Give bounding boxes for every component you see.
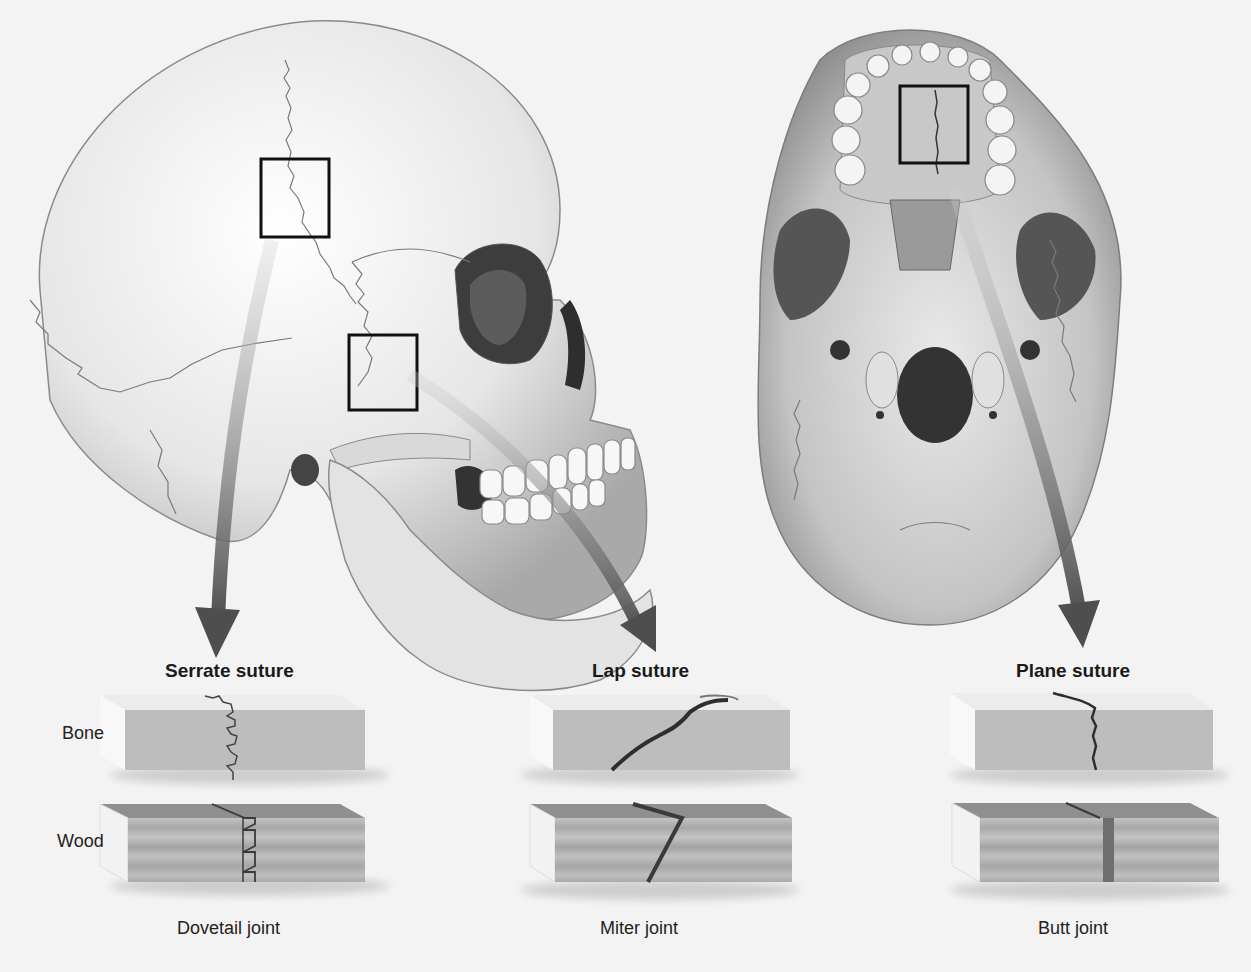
butt-joint-label: Butt joint bbox=[1038, 918, 1108, 939]
wood-row-label: Wood bbox=[57, 831, 104, 852]
wood-blocks-row bbox=[100, 803, 1230, 900]
bone-blocks-row bbox=[100, 693, 1230, 785]
bone-row-label: Bone bbox=[62, 723, 104, 744]
lateral-skull-illustration bbox=[30, 21, 653, 691]
plane-suture-title: Plane suture bbox=[1016, 660, 1130, 682]
serrate-suture-title: Serrate suture bbox=[165, 660, 294, 682]
plane-bone-block bbox=[950, 693, 1230, 785]
dovetail-joint-label: Dovetail joint bbox=[177, 918, 280, 939]
butt-wood-block bbox=[950, 803, 1230, 900]
miter-wood-block bbox=[520, 804, 800, 900]
lap-suture-title: Lap suture bbox=[592, 660, 689, 682]
miter-joint-label: Miter joint bbox=[600, 918, 678, 939]
suture-diagram: Serrate suture Lap suture Plane suture B… bbox=[0, 0, 1251, 972]
lap-bone-block bbox=[520, 695, 800, 785]
serrate-bone-block bbox=[100, 695, 390, 785]
arrow-plane-head-icon bbox=[1058, 600, 1100, 648]
dovetail-wood-block bbox=[100, 804, 390, 896]
arrow-serrate-head-icon bbox=[195, 607, 240, 658]
